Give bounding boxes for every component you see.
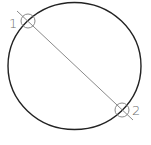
chord-line bbox=[17, 11, 133, 120]
circle-diagram: 1 2 bbox=[0, 0, 151, 145]
point-1-label: 1 bbox=[9, 16, 17, 31]
point-2-label: 2 bbox=[132, 103, 140, 118]
